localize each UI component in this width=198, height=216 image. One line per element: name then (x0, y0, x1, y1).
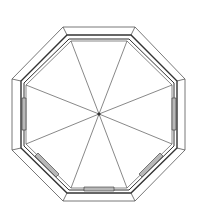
ridge-line (99, 114, 127, 188)
window-panels (22, 98, 176, 191)
roof-center-hub (97, 112, 100, 115)
window-panel-east (172, 98, 176, 130)
hip-corner-line (12, 148, 21, 150)
hip-corner-line (12, 79, 21, 81)
hip-corner-line (131, 27, 135, 35)
ridge-line (99, 114, 172, 144)
hip-corner-line (63, 193, 67, 201)
window-panel-west (22, 98, 26, 130)
ridge-line (99, 41, 127, 114)
hip-corner-line (177, 79, 185, 81)
hip-corner-line (63, 27, 67, 35)
hip-corner-line (177, 148, 185, 150)
ridge-line (99, 85, 172, 114)
ridge-line (26, 114, 99, 144)
ridge-line (26, 85, 99, 114)
window-panel-south (84, 187, 114, 191)
gazebo-roof-plan (0, 0, 198, 216)
roof-plan-drawing (0, 0, 198, 216)
ridge-line (71, 114, 99, 188)
hip-corner-line (131, 193, 135, 201)
ridge-line (71, 41, 99, 114)
